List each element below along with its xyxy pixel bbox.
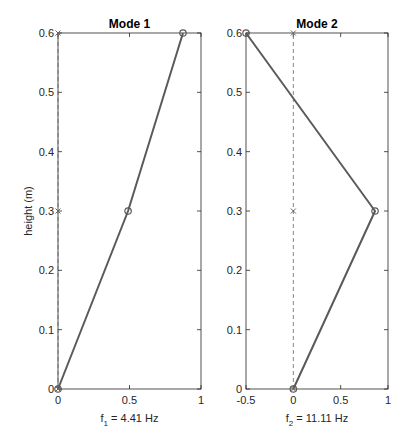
- y-tick-label: 0.4: [39, 146, 54, 158]
- y-axis-label: height (m): [22, 186, 34, 236]
- chart-title: Mode 2: [296, 17, 338, 31]
- y-tick-label: 0.6: [227, 27, 242, 39]
- x-tick-label: 1: [385, 394, 391, 406]
- mode-shape-line: [246, 33, 375, 389]
- y-tick-label: 0.5: [39, 86, 54, 98]
- x-tick-label: 0: [55, 394, 61, 406]
- chart-title: Mode 1: [109, 17, 151, 31]
- y-tick-label: 0.2: [227, 264, 242, 276]
- axes-2: -0.500.5100.10.20.30.40.50.6Mode 2f2 = 1…: [227, 17, 391, 428]
- x-tick-label: -0.5: [237, 394, 256, 406]
- y-tick-label: 0.4: [227, 146, 242, 158]
- y-tick-label: 0.1: [227, 324, 242, 336]
- x-tick-label: 0.5: [122, 394, 137, 406]
- y-tick-label: 0: [48, 383, 54, 395]
- mode-shape-line: [58, 33, 183, 389]
- y-tick-label: 0.3: [39, 205, 54, 217]
- x-tick-label: 0.5: [333, 394, 348, 406]
- y-tick-label: 0: [236, 383, 242, 395]
- y-tick-label: 0.3: [227, 205, 242, 217]
- y-tick-label: 0.2: [39, 264, 54, 276]
- y-tick-label: 0.6: [39, 27, 54, 39]
- y-tick-label: 0.5: [227, 86, 242, 98]
- y-tick-label: 0.1: [39, 324, 54, 336]
- x-tick-label: 0: [290, 394, 296, 406]
- x-axis-label: f2 = 11.11 Hz: [286, 412, 348, 428]
- x-axis-label: f1 = 4.41 Hz: [101, 412, 159, 428]
- mode-shapes-figure: 00.5100.10.20.30.40.50.6Mode 1f1 = 4.41 …: [0, 0, 411, 447]
- x-tick-label: 1: [198, 394, 204, 406]
- axes-1: 00.5100.10.20.30.40.50.6Mode 1f1 = 4.41 …: [22, 17, 204, 428]
